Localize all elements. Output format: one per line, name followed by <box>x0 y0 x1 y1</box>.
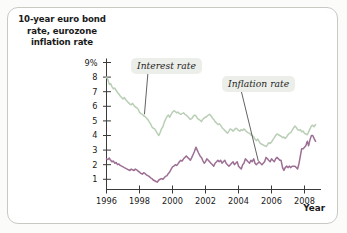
series-paths <box>107 77 316 182</box>
x-axis-tick-label: 2004 <box>222 196 256 206</box>
y-axis-tick-label: 3 <box>76 145 98 155</box>
series-label-interest-rate: Interest rate <box>131 58 202 74</box>
y-axis-tick-label: 9% <box>76 58 98 68</box>
x-axis-tick-label: 1998 <box>123 196 157 206</box>
y-axis-tick-label: 6 <box>76 101 98 111</box>
y-axis-tick-label: 4 <box>76 130 98 140</box>
y-axis-tick-label: 5 <box>76 116 98 126</box>
x-axis-tick-label: 2000 <box>156 196 190 206</box>
x-axis-title: Year <box>303 203 325 213</box>
x-axis-tick-label: 2002 <box>189 196 223 206</box>
y-axis-tick-label: 7 <box>76 87 98 97</box>
x-axis-tick-label: 2006 <box>255 196 289 206</box>
y-axis-tick-label: 8 <box>76 72 98 82</box>
y-axis-tick-label: 1 <box>76 174 98 184</box>
x-axis-tick-label: 1996 <box>90 196 124 206</box>
y-axis-tick-label: 2 <box>76 160 98 170</box>
figure-canvas: 10-year euro bond rate, eurozone inflati… <box>0 0 347 233</box>
series-label-inflation-rate: Inflation rate <box>222 76 295 92</box>
